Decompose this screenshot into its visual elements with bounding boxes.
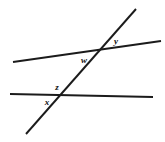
angle-label-w: w	[81, 56, 87, 65]
geometry-canvas	[0, 0, 165, 142]
angle-label-y: y	[114, 37, 118, 46]
lower-horizontal-line	[10, 94, 153, 97]
angle-label-x: x	[45, 98, 50, 107]
angle-label-z: z	[55, 83, 59, 92]
diagonal-transversal-line	[26, 9, 136, 134]
geometry-figure: w y z x	[0, 0, 165, 142]
